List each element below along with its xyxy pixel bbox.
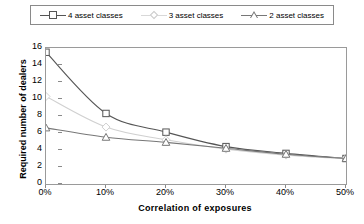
chart-container: 4 asset classes 3 asset classes 2 asset … bbox=[0, 0, 364, 224]
plot-area bbox=[45, 47, 347, 185]
triangle-marker-icon bbox=[46, 124, 50, 131]
x-tick-label: 20% bbox=[145, 188, 185, 197]
plot-svg bbox=[46, 48, 346, 184]
series-line bbox=[46, 52, 346, 158]
series-line bbox=[46, 96, 346, 158]
x-tick-label: 40% bbox=[265, 188, 305, 197]
x-tick-label: 0% bbox=[25, 188, 65, 197]
series-line bbox=[46, 128, 346, 159]
x-axis-title: Correlation of exposures bbox=[45, 203, 345, 213]
series-3 bbox=[46, 124, 346, 161]
square-marker-icon bbox=[103, 110, 109, 116]
square-marker-icon bbox=[163, 129, 169, 135]
diamond-marker-icon bbox=[102, 123, 110, 131]
diamond-marker-icon bbox=[46, 92, 50, 100]
x-tick-label: 30% bbox=[205, 188, 245, 197]
x-tick-label: 10% bbox=[85, 188, 125, 197]
square-marker-icon bbox=[46, 49, 49, 55]
series-2 bbox=[46, 92, 346, 162]
x-tick-label: 50% bbox=[325, 188, 364, 197]
